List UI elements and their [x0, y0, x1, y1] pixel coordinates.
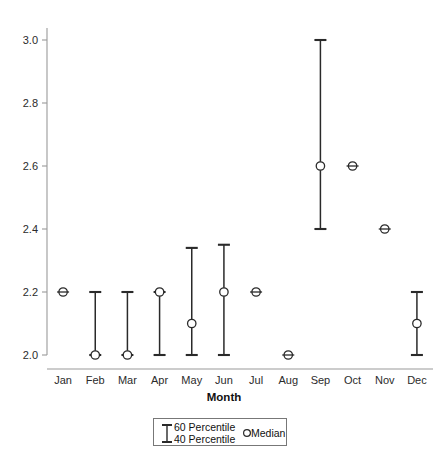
legend-label-median: Median — [251, 427, 285, 439]
y-tick-label: 2.2 — [23, 286, 38, 298]
x-tick-label-may: May — [181, 374, 202, 386]
data-point-aug — [282, 351, 294, 359]
x-tick-label-dec: Dec — [407, 374, 427, 386]
data-point-oct — [347, 162, 359, 170]
data-point-jul — [250, 288, 262, 296]
data-point-jun — [218, 245, 230, 355]
x-tick-label-jun: Jun — [215, 374, 233, 386]
x-axis-title: Month — [207, 391, 241, 403]
percentile-range-icon — [161, 423, 173, 444]
data-point-dec — [411, 292, 423, 355]
legend: 60 Percentile 40 Percentile Median — [153, 418, 287, 446]
x-tick-label-mar: Mar — [118, 374, 137, 386]
chart-container: 2.02.22.42.62.83.0 JanFebMarAprMayJunJul… — [0, 0, 440, 464]
plot-area: 2.02.22.42.62.83.0 JanFebMarAprMayJunJul… — [0, 0, 440, 410]
data-point-apr — [154, 288, 166, 355]
x-tick-label-oct: Oct — [344, 374, 361, 386]
y-axis: 2.02.22.42.62.83.0 — [23, 28, 47, 361]
x-tick-label-feb: Feb — [86, 374, 105, 386]
legend-label-60-percentile: 60 Percentile — [174, 421, 235, 433]
data-point-may — [186, 248, 198, 355]
y-tick-label: 2.8 — [23, 97, 38, 109]
x-tick-label-aug: Aug — [278, 374, 298, 386]
x-tick-label-jan: Jan — [54, 374, 72, 386]
x-tick-label-apr: Apr — [151, 374, 168, 386]
x-tick-label-jul: Jul — [249, 374, 263, 386]
y-tick-label: 2.6 — [23, 160, 38, 172]
y-tick-label: 2.4 — [23, 223, 38, 235]
x-tick-label-sep: Sep — [311, 374, 331, 386]
legend-label-40-percentile: 40 Percentile — [174, 433, 235, 445]
y-tick-label: 2.0 — [23, 349, 38, 361]
x-axis: JanFebMarAprMayJunJulAugSepOctNovDec — [47, 369, 433, 386]
x-tick-label-nov: Nov — [375, 374, 395, 386]
y-tick-label: 3.0 — [23, 34, 38, 46]
data-point-nov — [379, 225, 391, 233]
data-series-group — [57, 40, 423, 359]
data-point-jan — [57, 288, 69, 296]
data-point-feb — [89, 292, 101, 359]
data-point-sep — [314, 40, 326, 229]
data-point-mar — [121, 292, 133, 359]
